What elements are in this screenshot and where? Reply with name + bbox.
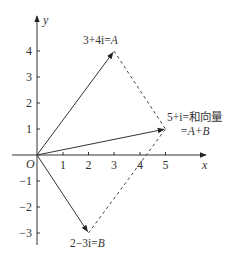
x-tick-label: 3 [111,158,117,172]
point-sum-label-line1: 5+i=和向量 [167,110,222,123]
dashed-side-b-to-sum [89,129,166,233]
x-tick-label: 5 [163,158,169,172]
vector-sum-arrow [37,129,164,155]
point-a-label: 3+4i=A [83,34,119,46]
y-tick-label: 1 [26,122,32,136]
dashed-side-a-to-sum [114,51,166,129]
origin-label: O [26,157,35,171]
y-tick-label: −3 [19,226,32,240]
y-tick-label: 2 [26,96,32,110]
y-tick-label: 4 [26,44,32,58]
point-b-label: 2−3i=B [70,237,105,249]
vector-a-arrow [37,53,113,156]
y-tick-label: −1 [19,174,32,188]
y-axis-label: y [42,13,49,27]
y-tick-label: −2 [19,200,32,214]
x-tick-label: 1 [60,158,66,172]
x-tick-label: 2 [86,158,92,172]
complex-plane-diagram: 1 2 3 4 5 4 3 2 1 −1 −2 −3 x y O 3+4i=A … [0,0,234,262]
point-sum-label-line2: =A+B [180,125,210,137]
x-axis-label: x [201,158,208,172]
y-tick-label: 3 [26,70,32,84]
